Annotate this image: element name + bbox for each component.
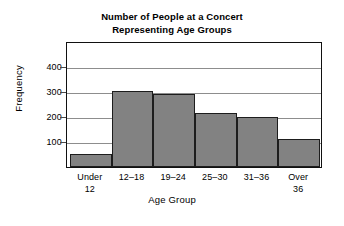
bar-1 [112,91,154,167]
x-tick-label-2-line-1: 19–24 [160,172,186,182]
chart-title: Number of People at a Concert Representi… [0,11,344,36]
bar-2 [153,94,195,167]
y-tick-label-300: 300 [28,88,62,97]
bar-chart-figure: Number of People at a Concert Representi… [0,0,344,226]
x-axis-title: Age Group [0,194,344,205]
x-tick-label-4-line-1: 31–36 [244,172,270,182]
bar-4 [237,117,279,167]
bar-3 [195,113,237,167]
y-axis-title: Frequency [13,49,24,129]
x-tick-label-0-line-1: Under [77,172,102,182]
x-tick-label-3-line-1: 25–30 [202,172,228,182]
bars-layer [67,43,321,167]
chart-title-line-1: Number of People at a Concert [0,11,344,24]
x-tick-label-5-line-1: Over [288,172,308,182]
y-tick-label-100: 100 [28,138,62,147]
x-tick-label-1-line-1: 12–18 [119,172,145,182]
plot-area [66,42,322,168]
x-tick-label-5: Over36 [269,172,327,195]
y-axis-tick-labels: 100200300400 [26,42,62,168]
chart-title-line-2: Representing Age Groups [0,24,344,37]
bar-5 [278,139,320,167]
y-tick-label-200: 200 [28,113,62,122]
bar-0 [70,154,112,167]
y-tick-label-400: 400 [28,63,62,72]
